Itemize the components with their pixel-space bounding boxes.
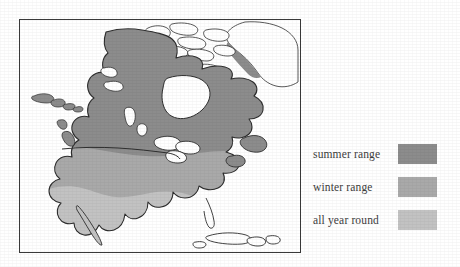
legend-item-all-year-round: all year round — [313, 209, 443, 231]
map-legend: summer range winter range all year round — [313, 143, 443, 245]
legend-label-winter-range: winter range — [313, 181, 393, 193]
range-map-figure: summer range winter range all year round — [0, 0, 460, 267]
caribbean-islands — [193, 233, 280, 248]
legend-swatch-all-year-round — [398, 210, 437, 230]
legend-item-winter-range: winter range — [313, 176, 443, 198]
florida-peninsula — [204, 198, 214, 228]
map-frame — [19, 19, 301, 253]
legend-swatch-winter-range — [398, 177, 437, 197]
legend-label-summer-range: summer range — [313, 148, 393, 160]
legend-label-all-year-round: all year round — [313, 214, 393, 226]
legend-item-summer-range: summer range — [313, 143, 443, 165]
legend-swatch-summer-range — [398, 144, 437, 164]
haida-gwaii-island — [57, 120, 67, 130]
north-america-map — [20, 20, 300, 252]
aleutian-islands — [32, 94, 83, 112]
